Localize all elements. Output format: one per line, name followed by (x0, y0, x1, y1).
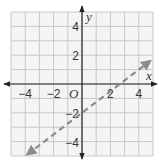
y-tick-label: −4 (65, 136, 79, 150)
x-tick-label: 4 (135, 87, 142, 101)
x-tick-label: −2 (47, 87, 61, 101)
y-tick-label: 2 (72, 49, 79, 63)
x-axis-label: x (145, 68, 152, 83)
x-tick-label: −4 (18, 87, 32, 101)
origin-label: O (69, 86, 79, 101)
coordinate-plane: −4−224 42−2−4 x y O (0, 0, 161, 162)
y-axis-label: y (84, 9, 92, 24)
y-tick-label: −2 (65, 107, 79, 121)
y-tick-label: 4 (72, 20, 79, 34)
